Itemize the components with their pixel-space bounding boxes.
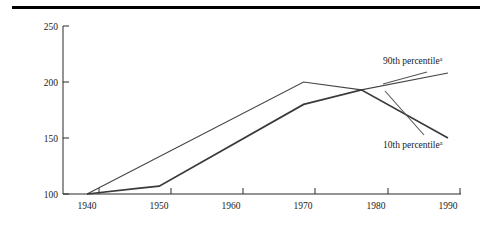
series-line-90th-percentile <box>87 73 448 194</box>
series-label-10th-footnote: a <box>440 140 443 146</box>
series-label-90th-footnote: a <box>440 56 443 62</box>
x-tick-label-1970: 1970 <box>294 201 313 211</box>
x-tick-label-1950: 1950 <box>150 201 169 211</box>
leader-line-10th-percentile <box>385 91 424 135</box>
series-label-10th-text: 10th percentile <box>383 140 440 150</box>
x-tick-label-1980: 1980 <box>367 201 386 211</box>
line-chart-plot: 250 200 150 100 1940 1950 1960 1970 1980… <box>0 0 492 228</box>
series-label-10th-percentile: 10th percentilea <box>383 140 443 150</box>
y-tick-label-250: 250 <box>44 22 59 32</box>
series-label-90th-percentile: 90th percentilea <box>383 56 443 66</box>
x-tick-label-1990: 1990 <box>439 201 458 211</box>
y-tick-label-150: 150 <box>44 134 59 144</box>
x-tick-label-1940: 1940 <box>78 201 97 211</box>
chart-figure: 250 200 150 100 1940 1950 1960 1970 1980… <box>0 0 492 228</box>
y-tick-label-200: 200 <box>44 78 59 88</box>
series-label-90th-text: 90th percentile <box>383 56 440 66</box>
x-tick-label-1960: 1960 <box>222 201 241 211</box>
y-tick-label-100: 100 <box>44 190 59 200</box>
